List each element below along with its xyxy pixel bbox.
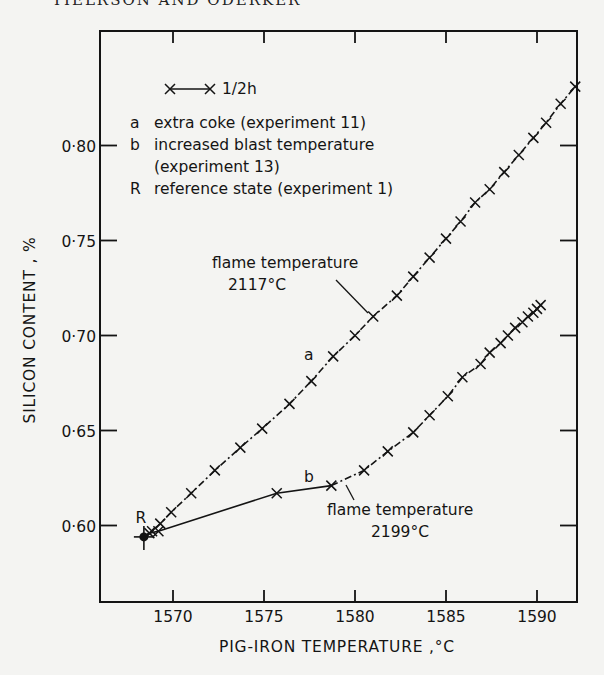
- y-tick-label: 0·80: [61, 138, 96, 156]
- x-marker: [368, 312, 378, 322]
- x-marker: [485, 348, 495, 358]
- x-marker: [570, 82, 580, 92]
- series-line: [144, 87, 575, 537]
- series-line-dashed: [331, 305, 540, 486]
- flame-temp-a-value: 2117°C: [228, 276, 286, 294]
- x-marker: [350, 331, 360, 341]
- x-marker: [470, 198, 480, 208]
- x-marker: [284, 399, 294, 409]
- x-marker: [499, 167, 509, 177]
- x-tick-label: 1570: [153, 608, 192, 626]
- x-marker: [476, 359, 486, 369]
- series-a-label: a: [304, 346, 314, 364]
- legend: 1/2haextra coke (experiment 11)bincrease…: [130, 80, 393, 198]
- time-scale-label: 1/2h: [222, 80, 257, 98]
- legend-text: (experiment 13): [154, 158, 280, 176]
- legend-text: increased blast temperature: [154, 136, 374, 154]
- y-tick-label: 0·60: [61, 518, 96, 536]
- x-marker: [510, 323, 520, 333]
- x-marker: [425, 410, 435, 420]
- x-tick-label: 1585: [426, 608, 465, 626]
- x-marker: [155, 519, 165, 529]
- x-marker: [383, 446, 393, 456]
- legend-text: reference state (experiment 1): [154, 180, 393, 198]
- legend-text: extra coke (experiment 11): [154, 114, 366, 132]
- x-marker: [392, 291, 402, 301]
- legend-key: a: [130, 114, 140, 132]
- x-tick-label: 1590: [517, 608, 556, 626]
- x-marker: [210, 465, 220, 475]
- x-marker: [541, 118, 551, 128]
- series-b-label: b: [304, 468, 314, 486]
- x-marker: [536, 300, 546, 310]
- x-marker: [528, 133, 538, 143]
- x-tick-label: 1580: [335, 608, 374, 626]
- x-marker: [456, 217, 466, 227]
- x-axis-label: PIG-IRON TEMPERATURE ,°C: [219, 638, 455, 656]
- x-marker: [186, 488, 196, 498]
- x-marker: [166, 507, 176, 517]
- x-marker: [523, 312, 533, 322]
- y-tick-label: 0·70: [61, 328, 96, 346]
- reference-label: R: [135, 509, 146, 527]
- x-marker: [257, 424, 267, 434]
- x-marker: [441, 234, 451, 244]
- flame-temp-b-leader: [346, 485, 354, 500]
- annotations: flame temperature2117°Cflame temperature…: [212, 254, 473, 541]
- y-axis-label: SILICON CONTENT , %: [21, 237, 39, 424]
- x-marker: [425, 253, 435, 263]
- y-tick-label: 0·75: [61, 233, 96, 251]
- x-tick-label: 1575: [244, 608, 283, 626]
- x-marker: [408, 427, 418, 437]
- x-marker: [328, 351, 338, 361]
- x-marker: [359, 465, 369, 475]
- x-marker: [457, 372, 467, 382]
- x-marker: [443, 391, 453, 401]
- flame-temp-b-label: flame temperature: [327, 501, 473, 519]
- chart: 157015751580158515900·600·650·700·750·80…: [0, 0, 604, 675]
- flame-temp-a-label: flame temperature: [212, 254, 358, 272]
- y-tick-label: 0·65: [61, 423, 96, 441]
- x-marker: [485, 184, 495, 194]
- x-marker: [556, 99, 566, 109]
- legend-key: b: [130, 136, 140, 154]
- flame-temp-a-leader: [336, 280, 368, 313]
- legend-key: R: [130, 180, 141, 198]
- x-marker: [514, 150, 524, 160]
- x-marker: [408, 272, 418, 282]
- flame-temp-b-value: 2199°C: [371, 523, 429, 541]
- x-marker: [235, 443, 245, 453]
- x-marker: [306, 376, 316, 386]
